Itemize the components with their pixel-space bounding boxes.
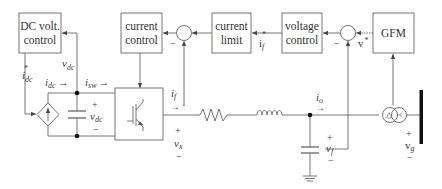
v-g-plus: + (406, 128, 412, 139)
sum-junction-voltage (341, 26, 356, 41)
transformer-icon (383, 108, 407, 123)
current-control-label-1: current (125, 20, 158, 32)
i-sw-label: isw→ (85, 76, 110, 90)
v-f-minus: − (328, 155, 334, 166)
i-dc-label: idc→ (45, 76, 69, 90)
voltage-control-label-2: control (286, 34, 319, 46)
node-dc-top (75, 91, 80, 96)
v-dc-cap-plus: + (92, 99, 98, 110)
v-x-plus: + (175, 125, 181, 136)
i-dc-ref-star: * (24, 64, 28, 73)
dc-volt-control-block (19, 13, 61, 53)
sum-current-minus: − (170, 38, 176, 49)
i-f-arrow: → (170, 101, 180, 112)
dc-volt-control-label-2: control (24, 34, 57, 46)
i-f-ref-label: if (259, 37, 266, 51)
v-x-label: vx (174, 137, 183, 151)
node-dc-bottom (75, 134, 80, 139)
ground-icon (303, 176, 317, 181)
i-f-label: if (171, 87, 178, 101)
v-dc-cap-minus: − (93, 124, 99, 135)
inductor (257, 111, 282, 116)
diagram-svg: DC volt. control current control current… (0, 0, 442, 189)
resistor (200, 109, 227, 121)
grid-bus-bar (420, 90, 424, 144)
v-dc-feedback-label: vdc (62, 57, 75, 72)
v-x-minus: − (176, 151, 182, 162)
v-ref-label: v* (358, 36, 369, 49)
current-control-block (121, 13, 162, 53)
sum-junction-current (177, 26, 192, 41)
i-f-ref-star: * (262, 30, 266, 39)
voltage-control-block (282, 13, 322, 53)
diagram-canvas: DC volt. control current control current… (0, 0, 442, 189)
v-dc-cap-label: vdc (90, 110, 103, 124)
v-g-minus: − (407, 152, 413, 163)
igbt-converter-block (115, 88, 163, 140)
current-limit-label-1: current (215, 20, 248, 32)
current-control-label-2: control (125, 34, 158, 46)
v-g-label: vg (405, 139, 415, 153)
dc-volt-control-label-1: DC volt. (20, 20, 60, 32)
current-limit-block (212, 13, 251, 53)
gfm-label: GFM (381, 27, 406, 39)
node-filter (308, 113, 313, 118)
sum-voltage-minus: − (334, 38, 340, 49)
voltage-control-label-1: voltage (285, 20, 319, 33)
current-limit-label-2: limit (221, 34, 244, 46)
i-o-arrow: → (315, 102, 325, 113)
